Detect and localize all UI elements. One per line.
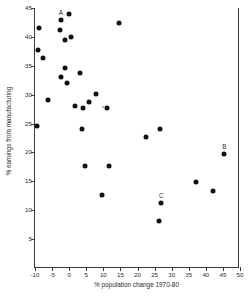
x-tick-label: 30 xyxy=(168,272,175,278)
data-point xyxy=(80,127,85,132)
x-tick-label: 40 xyxy=(202,272,209,278)
data-point xyxy=(143,135,148,140)
data-point xyxy=(36,26,41,31)
data-point xyxy=(35,124,40,129)
data-point xyxy=(45,97,50,102)
y-tick-label: 25 xyxy=(25,120,32,126)
data-point-label-c: C xyxy=(159,193,164,199)
data-point xyxy=(58,75,63,80)
data-point xyxy=(78,71,83,76)
y-tick-label: 10 xyxy=(25,207,32,213)
x-tick-label: 25 xyxy=(151,272,158,278)
data-point-label-a: A xyxy=(59,9,63,15)
data-point xyxy=(94,92,99,97)
x-tick-label: 15 xyxy=(117,272,124,278)
x-tick-label: 5 xyxy=(85,272,88,278)
x-axis-title: % population change 1970-80 xyxy=(34,282,239,288)
data-point xyxy=(106,163,111,168)
scatter-plot-figure: 51015202530354045 -10-505101520253035404… xyxy=(0,0,252,296)
x-tick-label: -10 xyxy=(31,272,40,278)
data-point xyxy=(68,35,73,40)
data-point xyxy=(63,66,68,71)
x-tick-label: -5 xyxy=(49,272,55,278)
data-point xyxy=(116,21,121,26)
data-point xyxy=(58,17,63,22)
y-tick-label: 15 xyxy=(25,178,32,184)
y-tick-label: 35 xyxy=(25,63,32,69)
data-point-label-b: B xyxy=(222,144,226,150)
data-point xyxy=(222,152,227,157)
data-point xyxy=(193,180,198,185)
y-tick-label: 20 xyxy=(25,149,32,155)
data-point xyxy=(157,126,162,131)
data-point xyxy=(66,11,71,16)
plot-area: 51015202530354045 -10-505101520253035404… xyxy=(34,8,239,268)
x-tick-label: 0 xyxy=(67,272,70,278)
y-axis-title: % earnings from manufacturing xyxy=(6,66,12,196)
data-point xyxy=(159,201,164,206)
data-point xyxy=(58,27,63,32)
y-tick-label: 40 xyxy=(25,34,32,40)
data-point xyxy=(104,105,109,110)
data-point xyxy=(210,189,215,194)
data-point xyxy=(35,47,40,52)
data-point xyxy=(82,164,87,169)
data-point xyxy=(62,37,67,42)
data-point xyxy=(41,55,46,60)
data-point xyxy=(87,99,92,104)
data-point xyxy=(80,105,85,110)
y-tick-label: 45 xyxy=(25,5,32,11)
data-point xyxy=(157,219,162,224)
x-tick-label: 20 xyxy=(134,272,141,278)
data-point xyxy=(65,80,70,85)
x-tick-label: 10 xyxy=(100,272,107,278)
y-tick-label: 5 xyxy=(29,236,32,242)
x-tick-label: 45 xyxy=(219,272,226,278)
x-tick-label: 50 xyxy=(237,272,244,278)
y-tick-label: 30 xyxy=(25,92,32,98)
data-point xyxy=(102,106,104,108)
x-tick-label: 35 xyxy=(185,272,192,278)
data-point xyxy=(99,193,104,198)
data-point xyxy=(72,103,77,108)
